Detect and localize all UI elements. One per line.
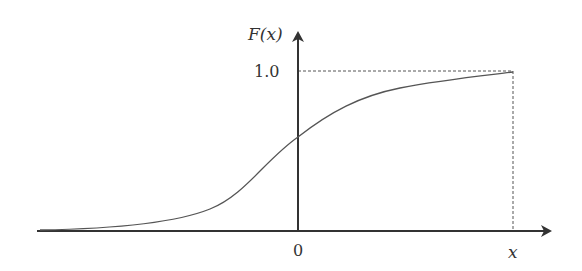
x-origin-label: 0 — [293, 241, 303, 260]
cdf-chart: F(x) 1.0 0 x — [0, 0, 582, 271]
chart-svg: F(x) 1.0 0 x — [0, 0, 582, 271]
y-tick-label: 1.0 — [254, 62, 279, 81]
y-axis-label: F(x) — [247, 24, 283, 44]
cdf-curve — [40, 72, 513, 230]
x-point-label: x — [508, 242, 518, 262]
